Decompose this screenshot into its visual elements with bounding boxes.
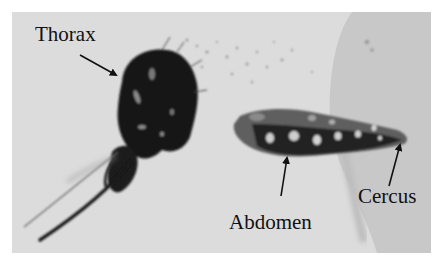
thorax-label: Thorax <box>35 24 96 45</box>
specimen-illustration <box>12 12 431 253</box>
cercus-label: Cercus <box>358 186 416 207</box>
specimen-photo: Thorax Abdomen Cercus <box>12 12 431 253</box>
abdomen-label: Abdomen <box>229 212 312 233</box>
